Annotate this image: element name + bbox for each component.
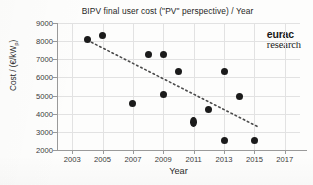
data-point: [145, 51, 152, 58]
chart-title: BIPV final user cost ("PV" perspective) …: [0, 6, 313, 16]
data-point: [221, 68, 228, 75]
y-tick-mark-2000: [53, 150, 58, 151]
data-point: [190, 117, 197, 127]
x-tick-mark-2011: [194, 150, 195, 154]
trendline: [57, 23, 300, 150]
data-point: [84, 36, 91, 43]
data-point: [221, 137, 228, 144]
x-tick-mark-2015: [254, 150, 255, 154]
y-axis-title-text: Cost / (€/kW: [9, 46, 18, 91]
y-axis-title-subscript: p: [13, 42, 19, 45]
y-tick-mark-7000: [53, 59, 58, 60]
y-tick-mark-8000: [53, 41, 58, 42]
y-tick-mark-6000: [53, 77, 58, 78]
y-tick-mark-4000: [53, 114, 58, 115]
y-axis-title: Cost / (€/kWp): [9, 13, 20, 117]
x-tick-label-2017: 2017: [265, 155, 305, 164]
x-tick-mark-2003: [72, 150, 73, 154]
y-tick-label-2000: 2000: [13, 146, 53, 155]
y-tick-label-3000: 3000: [13, 127, 53, 136]
x-tick-mark-2005: [103, 150, 104, 154]
x-tick-mark-2017: [285, 150, 286, 154]
x-axis-title: Year: [57, 166, 300, 176]
y-tick-mark-9000: [53, 23, 58, 24]
plot-area: [57, 23, 300, 150]
data-point: [251, 137, 258, 144]
data-point: [160, 91, 167, 98]
x-tick-mark-2007: [133, 150, 134, 154]
y-tick-mark-5000: [53, 96, 58, 97]
chart-figure: BIPV final user cost ("PV" perspective) …: [0, 0, 313, 185]
x-tick-mark-2009: [163, 150, 164, 154]
x-axis-line: [57, 150, 307, 151]
y-tick-mark-3000: [53, 132, 58, 133]
y-axis-title-close: ): [9, 40, 18, 43]
x-tick-mark-2013: [224, 150, 225, 154]
